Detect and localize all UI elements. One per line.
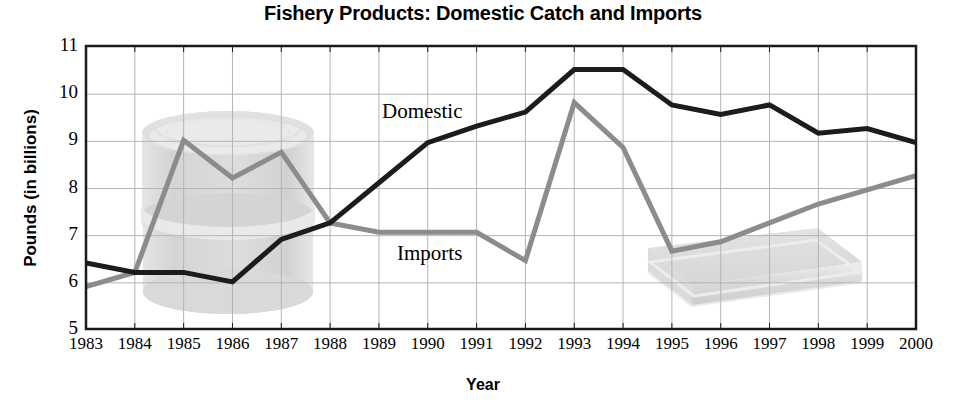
x-tick-label: 1987 xyxy=(257,334,305,354)
x-tick-label: 1992 xyxy=(501,334,549,354)
fishery-products-line-chart: Fishery Products: Domestic Catch and Imp… xyxy=(0,0,966,408)
x-tick-label: 1993 xyxy=(550,334,598,354)
y-tick-label: 9 xyxy=(44,128,78,150)
x-tick-label: 1983 xyxy=(62,334,110,354)
x-tick-label: 1994 xyxy=(599,334,647,354)
x-tick-label: 1995 xyxy=(648,334,696,354)
x-tick-label: 1997 xyxy=(746,334,794,354)
x-tick-label: 1989 xyxy=(355,334,403,354)
x-tick-label: 1985 xyxy=(160,334,208,354)
x-tick-label: 1986 xyxy=(208,334,256,354)
x-tick-label: 1998 xyxy=(794,334,842,354)
y-tick-label: 8 xyxy=(44,176,78,198)
x-tick-label: 2000 xyxy=(892,334,940,354)
x-tick-label: 1984 xyxy=(111,334,159,354)
x-tick-label: 1999 xyxy=(843,334,891,354)
x-tick-label: 1996 xyxy=(697,334,745,354)
x-tick-label: 1990 xyxy=(404,334,452,354)
y-tick-label: 7 xyxy=(44,223,78,245)
x-tick-label: 1991 xyxy=(453,334,501,354)
y-tick-label: 6 xyxy=(44,270,78,292)
series-label-domestic: Domestic xyxy=(382,99,462,124)
series-label-imports: Imports xyxy=(397,241,462,266)
x-tick-label: 1988 xyxy=(306,334,354,354)
y-tick-label: 11 xyxy=(44,34,78,56)
y-tick-label: 10 xyxy=(44,81,78,103)
